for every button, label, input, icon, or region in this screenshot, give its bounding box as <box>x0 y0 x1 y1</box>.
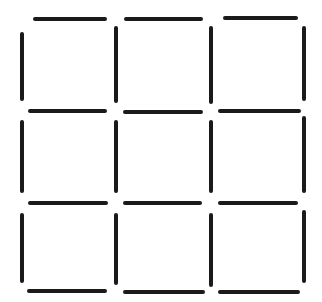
vertical-segment <box>209 26 213 104</box>
horizontal-segment <box>218 201 298 205</box>
vertical-segment <box>114 213 118 285</box>
horizontal-segment <box>28 109 107 113</box>
vertical-segment <box>302 116 306 193</box>
vertical-segment <box>209 213 213 287</box>
horizontal-segment <box>123 290 205 294</box>
horizontal-segment <box>124 17 203 21</box>
horizontal-segment <box>218 290 300 294</box>
vertical-segment <box>302 210 306 283</box>
vertical-segment <box>114 26 118 103</box>
vertical-segment <box>20 213 24 283</box>
vertical-segment <box>20 120 24 193</box>
horizontal-segment <box>123 201 202 205</box>
horizontal-segment <box>223 16 298 20</box>
horizontal-segment <box>27 289 107 293</box>
horizontal-segment <box>123 110 203 114</box>
matchstick-grid <box>0 0 322 302</box>
vertical-segment <box>209 120 213 193</box>
vertical-segment <box>302 26 306 101</box>
horizontal-segment <box>33 17 107 21</box>
horizontal-segment <box>28 201 108 205</box>
horizontal-segment <box>218 109 301 113</box>
vertical-segment <box>114 120 118 193</box>
vertical-segment <box>20 32 24 101</box>
